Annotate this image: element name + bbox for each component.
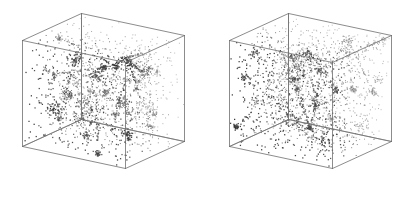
figure-root (0, 0, 414, 214)
left-panel-cube (0, 0, 207, 214)
right-panel-cube (207, 0, 414, 214)
